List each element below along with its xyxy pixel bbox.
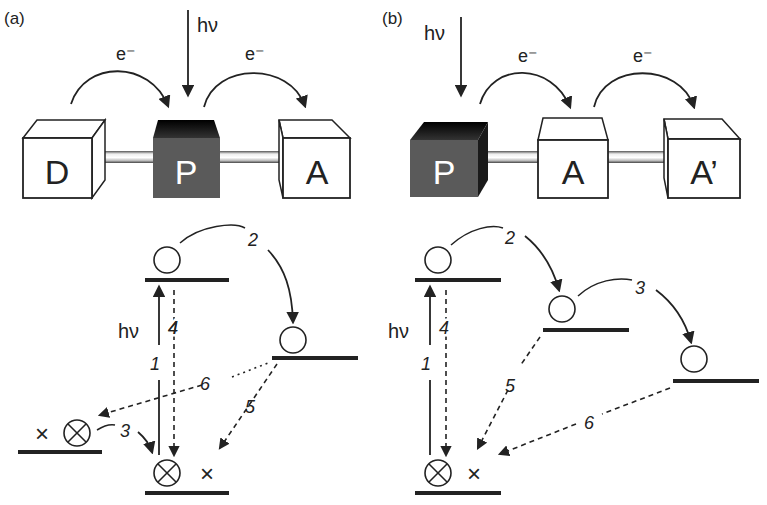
energy-level-ground	[415, 491, 501, 495]
recombination-arrow	[500, 424, 576, 454]
hole-marker: ×	[467, 460, 481, 487]
occupied-orbital-icon	[425, 460, 451, 486]
acceptor-cube: A	[279, 120, 350, 198]
electron-transfer-arrow-a-to-a2	[594, 73, 694, 107]
electron-circle	[425, 247, 451, 273]
step-label-6: 6	[200, 374, 211, 394]
acceptor-label: A	[562, 153, 585, 191]
transfer-arc	[451, 227, 503, 245]
step-label-4: 4	[168, 318, 178, 338]
energy-level-excited	[145, 278, 229, 282]
energy-level-ground	[145, 491, 229, 495]
acceptor-label: A	[306, 153, 329, 191]
transfer-arrow	[268, 250, 293, 322]
light-label: hν	[424, 22, 445, 44]
electron-label: e⁻	[518, 46, 538, 66]
panel-a-label: (a)	[4, 9, 25, 28]
light-label: hν	[197, 14, 218, 36]
electron-label: e⁻	[245, 44, 265, 64]
linker-rod	[100, 151, 155, 163]
hole-transfer-arrow	[138, 432, 152, 452]
electron-transfer-arrow-d-to-p	[71, 71, 168, 106]
secondary-acceptor-cube: A’	[664, 119, 740, 198]
hole-marker: ×	[35, 420, 49, 447]
panel-b: (b) hν e⁻ e⁻ P A A’	[382, 9, 759, 495]
recombination-dots	[232, 363, 268, 377]
photosensitizer-label: P	[175, 153, 198, 191]
energy-level-donor	[18, 450, 102, 454]
charge-recombination-arrow	[478, 390, 508, 448]
transfer-arc	[180, 225, 245, 243]
recombination-line	[602, 388, 670, 414]
step-label-1: 1	[150, 354, 160, 374]
step-label-5: 5	[245, 397, 256, 417]
step-label-4: 4	[439, 318, 449, 338]
recombination-line	[520, 337, 540, 366]
photosensitizer-label: P	[433, 153, 456, 191]
step-label-3: 3	[120, 421, 130, 441]
energy-diagram-b: × hν 1 4 2 3 5 6	[388, 227, 759, 495]
energy-level-secondary-acceptor	[673, 379, 759, 383]
recombination-arrow	[100, 385, 202, 415]
step-label-5: 5	[505, 376, 516, 396]
step-label-6: 6	[584, 413, 595, 433]
step-label-2: 2	[247, 230, 258, 250]
linker-rod	[608, 151, 668, 163]
electron-label: e⁻	[633, 46, 653, 66]
energy-level-acceptor	[543, 328, 629, 332]
energy-level-excited	[415, 278, 501, 282]
light-label: hν	[118, 320, 139, 342]
panel-a: (a) hν e⁻ e⁻ D P A	[4, 9, 358, 495]
energy-level-acceptor	[272, 356, 358, 360]
step-label-3: 3	[635, 278, 645, 298]
electron-transfer-arrow-p-to-a	[204, 73, 305, 107]
donor-cube: D	[23, 120, 105, 198]
photosensitizer-box: P	[153, 120, 220, 198]
energy-diagram-a: × × hν 1 4 4 2 6	[18, 225, 358, 495]
secondary-acceptor-label: A’	[690, 153, 718, 191]
hole-marker: ×	[200, 460, 214, 487]
step-label-2: 2	[504, 228, 515, 248]
electron-label: e⁻	[116, 44, 136, 64]
electron-circle	[681, 346, 707, 372]
transfer-arrow	[525, 236, 559, 290]
acceptor-box: A	[538, 118, 608, 198]
transfer-arrow	[656, 290, 691, 342]
electron-circle	[280, 327, 306, 353]
transfer-arc	[578, 279, 632, 296]
occupied-orbital-icon	[154, 460, 180, 486]
electron-circle	[154, 247, 180, 273]
electron-circle	[549, 296, 575, 322]
linker-rod	[486, 151, 540, 163]
occupied-orbital-icon	[64, 420, 90, 446]
photosensitizer-cube: P	[410, 122, 488, 197]
linker-rod	[220, 151, 286, 163]
donor-label: D	[45, 153, 70, 191]
transfer-arc	[97, 425, 115, 430]
panel-b-label: (b)	[382, 9, 403, 28]
step-label-1: 1	[421, 354, 431, 374]
photoinduced-electron-transfer-diagram: (a) hν e⁻ e⁻ D P A	[0, 0, 767, 505]
light-label: hν	[388, 320, 409, 342]
electron-transfer-arrow-p-to-a	[480, 73, 570, 107]
